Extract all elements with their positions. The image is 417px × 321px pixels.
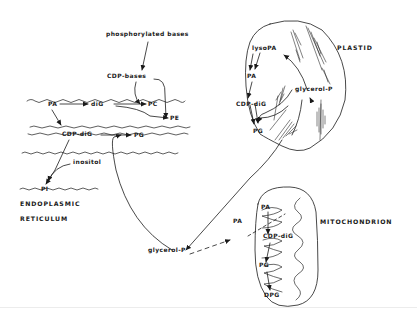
label-endoplasmic: ENDOPLASMIC (20, 201, 80, 207)
node-er-pc: PC (148, 101, 158, 107)
node-mito-cdp-dig: CDP-diG (263, 233, 293, 239)
label-reticulum: RETICULUM (20, 216, 68, 222)
node-phosphorylated-bases: phosphorylated bases (106, 31, 189, 37)
node-mito-pa: PA (261, 204, 270, 210)
node-mito-dpg: DPG (264, 292, 280, 298)
node-cdp-bases: CDP-bases (107, 73, 146, 79)
node-plastid-lysopa: lysoPA (252, 45, 277, 51)
er-membrane-2 (30, 126, 190, 128)
node-er-pe: PE (170, 115, 179, 121)
node-inositol: inositol (73, 159, 101, 165)
node-mito-pg: PG (259, 262, 269, 268)
node-er-cdp-dig: CDP-diG (62, 131, 92, 137)
node-er-dig: diG (91, 101, 103, 107)
node-cyto-pa: PA (233, 218, 242, 224)
node-plastid-cdp-dig: CDP-diG (236, 101, 266, 107)
node-er-pg: PG (134, 132, 144, 138)
bottom-divider (0, 307, 417, 308)
er-membrane-4 (22, 152, 178, 154)
node-plastid-pa: PA (247, 73, 256, 79)
node-plastid-pg: PG (253, 128, 263, 134)
er-membrane-5 (20, 188, 98, 190)
label-mitochondrion: MITOCHONDRION (320, 219, 392, 225)
node-plastid-glycerol-p: glycerol-P (295, 86, 333, 92)
pathway-diagram: phosphorylated bases CDP-bases PA diG PC… (0, 0, 417, 321)
node-er-pi: PI (41, 186, 48, 192)
label-plastid: PLASTID (337, 45, 373, 51)
node-cyto-glycerol-p: glycerol-P (148, 247, 186, 253)
node-er-pa: PA (48, 101, 57, 107)
